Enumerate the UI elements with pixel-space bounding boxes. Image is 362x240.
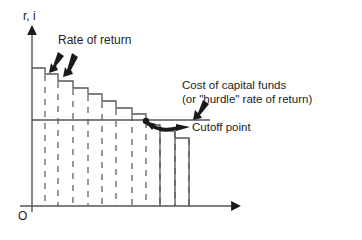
arrow-tail-icon (176, 124, 190, 131)
rate-of-return-arrows (49, 52, 78, 77)
arrow-icon (49, 52, 64, 73)
rate-of-return-label: Rate of return (58, 33, 131, 47)
origin-label: O (18, 209, 27, 223)
cost-of-capital-label-line2: (or "hurdle" rate of return) (182, 93, 312, 105)
arrow-icon (63, 53, 78, 77)
step-dividers (45, 75, 189, 206)
y-axis-label: r, i (23, 9, 36, 23)
cutoff-point-label: Cutoff point (192, 121, 251, 133)
rate-of-return-staircase (32, 68, 189, 206)
investment-cutoff-diagram: r, i O Rate of return Cost of capital fu… (0, 0, 362, 240)
cost-of-capital-label-line1: Cost of capital funds (182, 79, 286, 91)
